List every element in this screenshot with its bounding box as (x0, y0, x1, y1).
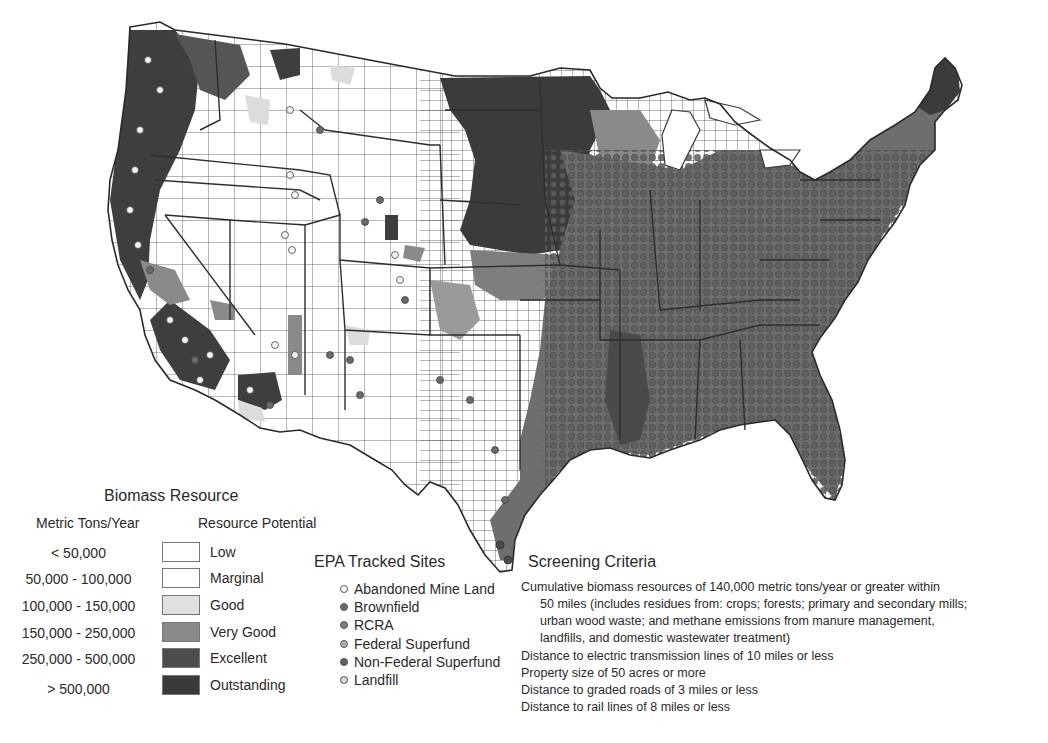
legend-swatch-very-good (162, 622, 200, 642)
legend-row-good: 100,000 - 150,000 Good (0, 595, 350, 619)
epa-tracked-sites-legend: EPA Tracked Sites Abandoned Mine Land Br… (314, 548, 524, 698)
legend-label: RCRA (354, 617, 394, 633)
circle-marker-icon (340, 585, 348, 593)
screening-criteria: Screening Criteria Cumulative biomass re… (518, 553, 1048, 733)
legend-row-excellent: 250,000 - 500,000 Excellent (0, 648, 350, 672)
legend-column-header-tons: Metric Tons/Year (36, 515, 140, 531)
circle-marker-icon (340, 676, 348, 684)
legend-label: Non-Federal Superfund (354, 654, 500, 670)
circle-marker-icon (340, 621, 348, 629)
legend-range: 100,000 - 150,000 (0, 598, 157, 614)
legend-level: Outstanding (210, 677, 286, 693)
legend-title: EPA Tracked Sites (314, 553, 445, 571)
legend-level: Very Good (210, 624, 276, 640)
legend-range: 50,000 - 100,000 (0, 571, 157, 587)
legend-range: 250,000 - 500,000 (0, 651, 157, 667)
legend-swatch-outstanding (162, 675, 200, 695)
legend-row-marginal: 50,000 - 100,000 Marginal (0, 568, 350, 592)
criteria-line: 50 miles (includes residues from: crops;… (540, 596, 967, 613)
legend-column-header-potential: Resource Potential (198, 515, 316, 531)
legend-swatch-good (162, 595, 200, 615)
legend-label: Abandoned Mine Land (354, 581, 495, 597)
criteria-line: Distance to rail lines of 8 miles or les… (521, 699, 730, 716)
legend-level: Marginal (210, 570, 264, 586)
legend-row-outstanding: > 500,000 Outstanding (0, 675, 350, 699)
legend-label: Federal Superfund (354, 636, 470, 652)
legend-row-low: < 50,000 Low (0, 542, 350, 566)
circle-marker-icon (340, 640, 348, 648)
criteria-title: Screening Criteria (528, 553, 656, 571)
legend-swatch-low (162, 542, 200, 562)
legend-swatch-excellent (162, 648, 200, 668)
legend-range: > 500,000 (0, 681, 157, 697)
criteria-line: urban wood waste; and methane emissions … (540, 613, 935, 630)
criteria-line: Cumulative biomass resources of 140,000 … (521, 579, 940, 596)
criteria-line: Property size of 50 acres or more (521, 665, 706, 682)
circle-marker-icon (340, 603, 348, 611)
legend-swatch-marginal (162, 568, 200, 588)
circle-marker-icon (340, 658, 348, 666)
legend-range: < 50,000 (0, 545, 157, 561)
legend-range: 150,000 - 250,000 (0, 625, 157, 641)
criteria-line: Distance to graded roads of 3 miles or l… (521, 682, 758, 699)
legend-level: Low (210, 544, 236, 560)
legend-label: Brownfield (354, 599, 419, 615)
legend-label: Landfill (354, 672, 398, 688)
biomass-resource-legend: Biomass Resource Metric Tons/Year Resour… (0, 480, 350, 710)
legend-title: Biomass Resource (104, 487, 238, 505)
legend-row-very-good: 150,000 - 250,000 Very Good (0, 622, 350, 646)
criteria-line: landfills, and domestic wastewater treat… (540, 630, 790, 647)
legend-level: Good (210, 597, 244, 613)
legend-level: Excellent (210, 650, 267, 666)
criteria-line: Distance to electric transmission lines … (521, 648, 834, 665)
